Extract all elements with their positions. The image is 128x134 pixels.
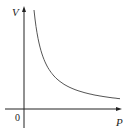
y-axis-label: V bbox=[12, 6, 20, 18]
graph-canvas: V 0 P bbox=[0, 0, 128, 134]
y-axis-arrow-icon bbox=[22, 6, 26, 12]
x-axis-label: P bbox=[115, 116, 123, 128]
x-axis-arrow-icon bbox=[116, 107, 122, 111]
origin-label: 0 bbox=[15, 112, 20, 123]
inverse-curve bbox=[34, 10, 120, 99]
